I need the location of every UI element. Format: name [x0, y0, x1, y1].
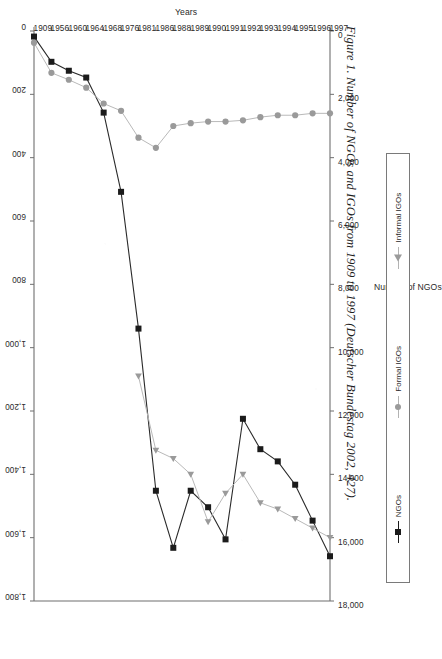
ytick-label-igos: 600: [12, 212, 26, 221]
xtick-label-year: 1956: [51, 24, 70, 33]
data-point-marker: [66, 68, 72, 74]
xtick-label-year: 1989: [190, 24, 209, 33]
data-point-marker: [31, 34, 37, 40]
data-point-marker: [170, 123, 176, 129]
data-point-marker: [205, 118, 211, 124]
data-point-marker: [118, 108, 124, 114]
data-point-marker: [83, 75, 89, 81]
xtick-label-year: 1991: [225, 24, 244, 33]
xtick-label-year: 1986: [155, 24, 174, 33]
data-point-marker: [66, 77, 72, 83]
data-point-marker: [188, 120, 194, 126]
data-point-marker: [135, 326, 141, 332]
data-point-marker: [275, 112, 281, 118]
ytick-label-igos: 1,200: [5, 402, 26, 411]
data-point-marker: [205, 504, 211, 510]
data-point-marker: [135, 374, 142, 380]
data-point-marker: [118, 189, 124, 195]
ytick-label-igos: 0: [21, 22, 26, 31]
data-point-marker: [292, 112, 298, 118]
data-point-marker: [292, 516, 299, 522]
square-marker-icon: [394, 521, 403, 543]
xtick-label-year: 1996: [312, 24, 331, 33]
data-point-marker: [48, 59, 54, 65]
data-point-marker: [275, 458, 281, 464]
data-point-marker: [310, 518, 316, 524]
data-point-marker: [309, 110, 315, 116]
data-point-marker: [222, 118, 228, 124]
data-point-marker: [170, 545, 176, 551]
data-point-marker: [153, 488, 159, 494]
data-point-marker: [135, 135, 141, 141]
xtick-label-year: 1993: [260, 24, 279, 33]
data-point-marker: [223, 536, 229, 542]
legend-item-ngos: NGOs: [394, 495, 403, 543]
circle-marker-icon: [394, 396, 403, 418]
data-point-marker: [31, 40, 37, 46]
ytick-label-igos: 800: [12, 275, 26, 284]
data-point-marker: [257, 114, 263, 120]
legend-label-ngos: NGOs: [394, 495, 403, 517]
data-point-marker: [101, 110, 107, 116]
xtick-label-year: 1995: [295, 24, 314, 33]
legend-label-formal-igos: Formal IGOs: [394, 346, 403, 392]
data-point-marker: [327, 553, 333, 559]
data-point-marker: [101, 100, 107, 106]
data-point-marker: [240, 117, 246, 123]
xtick-label-year: 1990: [208, 24, 227, 33]
ytick-label-igos: 1,800: [5, 592, 26, 601]
data-point-marker: [188, 488, 194, 494]
data-point-marker: [187, 472, 194, 478]
data-point-marker: [83, 85, 89, 91]
legend-label-informal-igos: Informal IGOs: [394, 193, 403, 243]
axis-title-years: Years: [175, 7, 197, 17]
xtick-label-year: 1960: [68, 24, 87, 33]
data-point-marker: [222, 491, 229, 497]
xtick-label-year: 1994: [277, 24, 296, 33]
ytick-label-igos: 200: [12, 85, 26, 94]
ytick-label-igos: 1,000: [5, 339, 26, 348]
figure-caption: Figure 1. Number of NGOs and IGOs from 1…: [338, 0, 364, 659]
data-point-marker: [205, 519, 212, 525]
series-line-formal-igos: [34, 43, 330, 148]
xtick-label-year: 1909: [34, 24, 53, 33]
ytick-label-igos: 1,600: [5, 529, 26, 538]
data-point-marker: [257, 446, 263, 452]
legend-item-formal-igos: Formal IGOs: [394, 346, 403, 418]
xtick-label-year: 1981: [138, 24, 157, 33]
data-point-marker: [309, 526, 316, 532]
data-point-marker: [48, 70, 54, 76]
series-line-informal-igos: [138, 376, 330, 538]
data-point-marker: [292, 482, 298, 488]
xtick-label-year: 1976: [121, 24, 140, 33]
ytick-label-igos: 1,400: [5, 465, 26, 474]
data-point-marker: [274, 507, 281, 513]
ytick-label-igos: 400: [12, 149, 26, 158]
xtick-label-year: 1968: [103, 24, 122, 33]
legend-item-informal-igos: Informal IGOs: [394, 193, 403, 269]
xtick-label-year: 1992: [242, 24, 261, 33]
xtick-label-year: 1988: [173, 24, 192, 33]
data-point-marker: [240, 416, 246, 422]
data-point-marker: [153, 145, 159, 151]
data-point-marker: [327, 110, 333, 116]
chart-legend: NGOs Formal IGOs Informal IGOs: [386, 153, 410, 583]
xtick-label-year: 1964: [86, 24, 105, 33]
series-line-ngos: [34, 37, 330, 557]
triangle-marker-icon: [394, 247, 403, 269]
data-point-marker: [152, 448, 159, 454]
